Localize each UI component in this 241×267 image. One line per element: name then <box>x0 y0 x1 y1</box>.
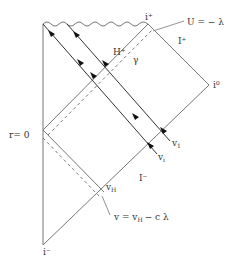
i-plus-label: i⁺ <box>145 12 153 22</box>
horizon-label: H⁺ <box>113 47 126 57</box>
v1-label: v1 <box>171 138 181 149</box>
i-minus-label: i⁻ <box>43 247 51 257</box>
ray-vi <box>43 24 157 154</box>
i-zero-label: i⁰ <box>213 80 220 90</box>
vi-label: vi <box>157 152 165 163</box>
U-label: U = − λ <box>187 17 224 27</box>
gamma-dashed-line <box>48 29 153 135</box>
scri-minus-label: I⁻ <box>139 173 148 183</box>
v-pointer <box>102 196 110 215</box>
v-equation-label: v = vH− c λ <box>113 212 169 223</box>
vH-dashed-line <box>43 138 99 196</box>
scri-plus-line <box>148 24 209 85</box>
singularity-line <box>43 22 148 26</box>
gamma-label: γ <box>133 55 138 65</box>
scri-plus-label: I⁺ <box>178 36 187 46</box>
infall-line-vH <box>43 130 104 192</box>
arrowheads <box>48 30 167 149</box>
r0-label: r= 0 <box>9 130 30 140</box>
penrose-diagram: i⁺ U = − λ I⁺ H⁺ γ i⁰ r= 0 v1 vi I⁻ vH v… <box>0 0 241 267</box>
ray-v1 <box>67 24 170 141</box>
U-pointer <box>153 21 184 31</box>
vH-label: vH <box>105 182 116 193</box>
